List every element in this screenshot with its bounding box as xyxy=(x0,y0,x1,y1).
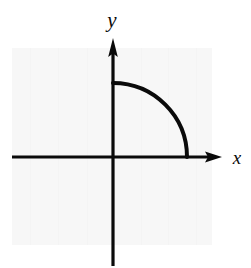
x-axis-label: x xyxy=(232,147,242,168)
quarter-circle-figure: y x xyxy=(0,0,251,268)
figure-container: y x xyxy=(0,0,251,268)
y-axis-label: y xyxy=(105,8,117,32)
